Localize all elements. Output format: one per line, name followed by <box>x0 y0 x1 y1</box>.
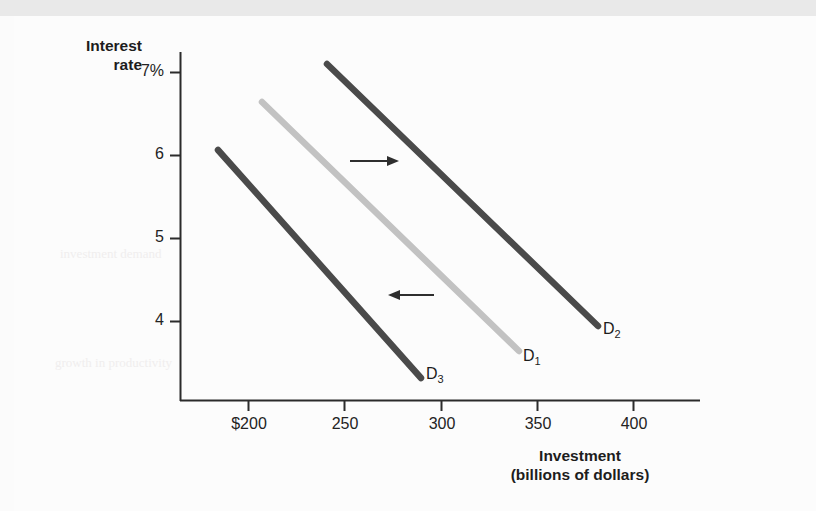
curve-d1 <box>262 102 519 351</box>
shift-right-arrow <box>350 156 399 166</box>
x-axis <box>180 401 700 412</box>
y-axis <box>170 52 181 401</box>
curve-label-d3-text: D <box>426 365 438 382</box>
shift-left-arrow <box>388 290 434 300</box>
x-tick-label-250: 250 <box>315 415 375 433</box>
x-tick-label-200: $200 <box>219 415 279 433</box>
curve-label-d1-text: D <box>523 347 535 364</box>
curve-d2 <box>327 64 598 326</box>
curve-label-d3: D3 <box>426 365 444 385</box>
curve-d3 <box>218 150 421 378</box>
curve-label-d3-subscript: 3 <box>438 373 444 385</box>
figure-page: investment demand growth in productivity <box>0 0 816 511</box>
y-axis-title: Interest rate <box>42 36 142 74</box>
x-tick-label-400: 400 <box>604 415 664 433</box>
y-tick-label-6: 6 <box>118 145 164 163</box>
x-axis-title: Investment (billions of dollars) <box>470 446 690 484</box>
curve-label-d2-text: D <box>603 320 615 337</box>
x-tick-label-300: 300 <box>412 415 472 433</box>
x-tick-label-350: 350 <box>508 415 568 433</box>
curve-label-d1: D1 <box>523 347 541 367</box>
curve-label-d2-subscript: 2 <box>615 328 621 340</box>
y-tick-label-5: 5 <box>118 228 164 246</box>
y-tick-label-4: 4 <box>118 311 164 329</box>
curve-label-d1-subscript: 1 <box>535 355 541 367</box>
curve-label-d2: D2 <box>603 320 621 340</box>
